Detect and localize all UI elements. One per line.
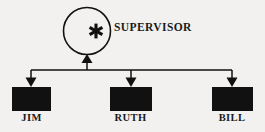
- diagram-canvas: SUPERVISOR JIM RUTH BILL: [0, 0, 265, 132]
- asterisk-icon: [90, 24, 103, 39]
- subordinate-label-jim: JIM: [12, 113, 51, 124]
- subordinate-label-bill: BILL: [211, 113, 253, 124]
- arrow-up-head: [82, 54, 93, 63]
- subordinate-label-ruth: RUTH: [109, 113, 152, 124]
- subordinate-box-jim[interactable]: [12, 87, 51, 111]
- supervisor-label: SUPERVISOR: [114, 22, 192, 34]
- arrow-down-head-bill: [227, 78, 238, 88]
- supervisor-circle[interactable]: [64, 8, 111, 55]
- arrow-down-head-ruth: [126, 78, 137, 88]
- subordinate-box-ruth[interactable]: [110, 87, 152, 111]
- subordinate-box-bill[interactable]: [212, 87, 253, 111]
- arrow-down-head-jim: [26, 78, 37, 88]
